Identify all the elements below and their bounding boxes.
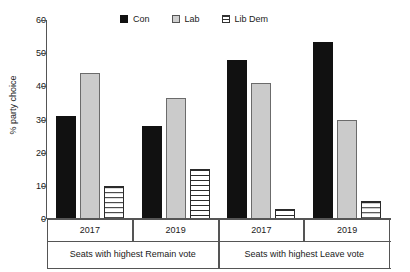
bar-lib-dem — [104, 186, 124, 219]
x-axis-group-label: Seats with highest Leave vote — [219, 241, 391, 268]
bar-con — [56, 116, 76, 219]
y-tick-mark — [41, 186, 46, 187]
y-tick: 20 — [0, 153, 46, 154]
y-tick-mark — [41, 20, 46, 21]
bar-group — [304, 20, 390, 219]
y-tick: 50 — [0, 53, 46, 54]
y-tick: 40 — [0, 86, 46, 87]
bar-lab — [166, 98, 186, 219]
x-axis-year-label: 2019 — [304, 219, 390, 241]
bar-group — [47, 20, 133, 219]
bar-group — [133, 20, 219, 219]
x-axis-year-label: 2019 — [133, 219, 219, 241]
y-tick-mark — [41, 53, 46, 54]
y-tick-mark — [41, 219, 46, 220]
x-axis-divider-bottom — [47, 268, 391, 269]
y-tick-mark — [41, 153, 46, 154]
x-axis-year-row: 2017201920172019 — [47, 219, 391, 241]
plot-area — [47, 20, 390, 219]
x-axis-year-text: 2017 — [80, 226, 100, 235]
x-axis-group-text: Seats with highest Leave vote — [244, 250, 364, 259]
y-tick: 10 — [0, 186, 46, 187]
x-axis-year-text: 2019 — [166, 226, 186, 235]
bar-con — [227, 60, 247, 219]
y-tick: 60 — [0, 20, 46, 21]
x-axis-group-text: Seats with highest Remain vote — [70, 250, 196, 259]
x-axis-year-label: 2017 — [47, 219, 133, 241]
x-axis-year-text: 2017 — [251, 226, 271, 235]
y-axis-label: % party choice — [8, 40, 18, 170]
x-axis-year-label: 2017 — [219, 219, 305, 241]
bar-con — [313, 42, 333, 219]
bar-lab — [337, 120, 357, 220]
bar-con — [142, 126, 162, 219]
bar-lib-dem — [190, 169, 210, 219]
y-tick: 0 — [0, 219, 46, 220]
bar-lab — [80, 73, 100, 219]
x-axis-group-label: Seats with highest Remain vote — [47, 241, 219, 268]
x-axis: 2017201920172019 Seats with highest Rema… — [47, 219, 391, 272]
x-axis-group-row: Seats with highest Remain voteSeats with… — [47, 241, 391, 268]
x-axis-year-text: 2019 — [337, 226, 357, 235]
bar-chart: Con Lab Lib Dem % party choice 010203040… — [0, 0, 410, 272]
x-axis-divider-top — [47, 219, 391, 220]
bar-lab — [251, 83, 271, 219]
y-tick-mark — [41, 120, 46, 121]
bar-lib-dem — [361, 201, 381, 219]
y-tick: 30 — [0, 120, 46, 121]
bar-group — [219, 20, 305, 219]
y-tick-mark — [41, 86, 46, 87]
